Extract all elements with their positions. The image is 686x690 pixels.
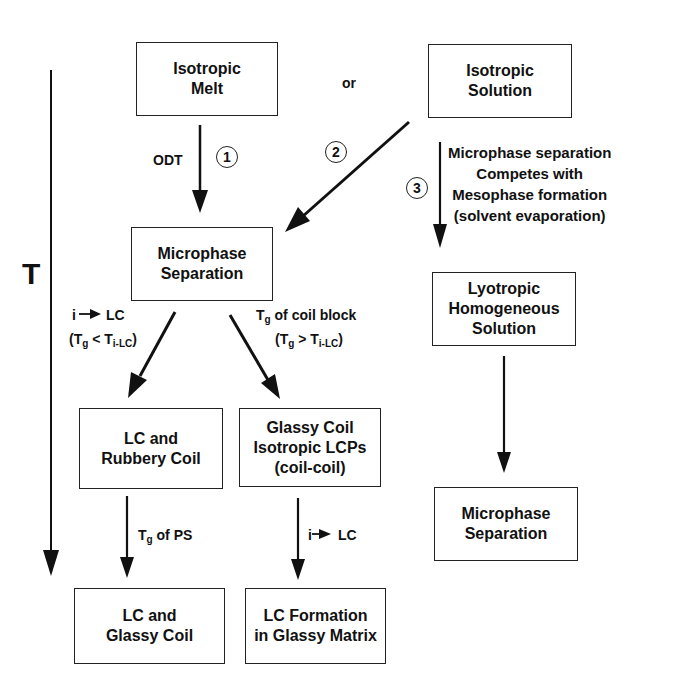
text-line: (solvent evaporation) — [448, 205, 611, 226]
box-line: in Glassy Matrix — [254, 626, 377, 646]
box-line: LC Formation — [264, 606, 368, 626]
box-line: Separation — [161, 264, 244, 284]
box-line: (coil-coil) — [274, 458, 345, 478]
box-line: Separation — [465, 524, 548, 544]
right-branch-label-line1: Tg of coil block — [256, 306, 356, 329]
path-number-3: 3 — [406, 177, 428, 199]
box-line: Microphase — [462, 504, 551, 524]
tg-of-ps-label: Tg of PS — [138, 526, 192, 549]
box-line: Isotropic — [173, 59, 241, 79]
text: of PS — [153, 527, 193, 543]
box-microphase-separation-right: Microphase Separation — [434, 487, 578, 561]
or-connector: or — [342, 74, 356, 92]
text: i — [308, 527, 312, 543]
box-lyotropic-homogeneous-solution: Lyotropic Homogeneous Solution — [432, 272, 576, 346]
text: ) — [338, 331, 343, 347]
phase-diagram-flowchart: T Isotropic Melt or Isotropic Solution O… — [0, 0, 686, 690]
subscript: i-LC — [319, 338, 338, 349]
path-number-2: 2 — [325, 141, 347, 163]
box-line: Solution — [472, 319, 536, 339]
left-branch-label-line2: (Tg < Ti-LC) — [69, 330, 137, 353]
text-line: Microphase separation — [448, 142, 611, 163]
box-line: Isotropic — [466, 61, 534, 81]
text: T — [138, 527, 147, 543]
text-line: Mesophase formation — [448, 184, 611, 205]
text: (T — [275, 331, 288, 347]
box-line: Glassy Coil — [266, 418, 353, 438]
box-isotropic-melt: Isotropic Melt — [136, 42, 278, 116]
text: T — [256, 307, 265, 323]
text: < T — [88, 331, 113, 347]
odt-label: ODT — [153, 151, 183, 169]
box-glassy-coil-isotropic-lcps: Glassy Coil Isotropic LCPs (coil-coil) — [239, 408, 381, 487]
text: (T — [69, 331, 82, 347]
path-3-description: Microphase separation Competes with Meso… — [448, 142, 611, 226]
subscript: i-LC — [113, 338, 132, 349]
box-lc-glassy-coil: LC and Glassy Coil — [74, 588, 225, 664]
box-line: Lyotropic — [468, 279, 540, 299]
right-branch-label-line2: (Tg > Ti-LC) — [275, 330, 343, 353]
left-branch-label-line1: iLC — [72, 306, 125, 324]
box-microphase-separation: Microphase Separation — [131, 227, 273, 301]
box-line: Solution — [468, 81, 532, 101]
box-lc-rubbery-coil: LC and Rubbery Coil — [79, 408, 223, 489]
text: LC — [106, 307, 125, 323]
text: LC — [338, 527, 357, 543]
box-line: Microphase — [158, 244, 247, 264]
box-lc-formation-glassy-matrix: LC Formation in Glassy Matrix — [245, 588, 386, 664]
path-number-1: 1 — [216, 146, 238, 168]
box-isotropic-solution: Isotropic Solution — [428, 44, 572, 118]
text-line: Competes with — [448, 163, 611, 184]
box-line: Isotropic LCPs — [254, 438, 367, 458]
box-line: Rubbery Coil — [101, 449, 201, 469]
box-line: LC and — [122, 606, 176, 626]
i-to-lc-label: iLC — [308, 526, 357, 544]
text: i — [72, 307, 76, 323]
text: > T — [294, 331, 319, 347]
text: ) — [132, 331, 137, 347]
box-line: Glassy Coil — [106, 626, 193, 646]
text: of coil block — [271, 307, 357, 323]
box-line: Homogeneous — [448, 299, 559, 319]
box-line: Melt — [191, 79, 223, 99]
box-line: LC and — [124, 429, 178, 449]
temperature-axis-label: T — [22, 258, 40, 290]
